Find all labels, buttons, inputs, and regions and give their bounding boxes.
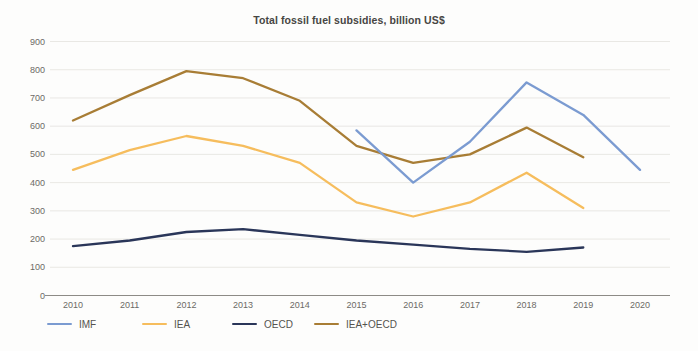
series-line-oecd xyxy=(73,229,583,252)
x-axis-tick-label-2017: 2017 xyxy=(460,300,480,310)
series-line-imf xyxy=(357,82,641,182)
fossil-fuel-subsidies-chart: Total fossil fuel subsidies, billion US$… xyxy=(0,0,698,351)
series-line-iea-oecd xyxy=(73,71,583,163)
x-axis-tick-label-2015: 2015 xyxy=(346,300,366,310)
x-axis-tick-label-2020: 2020 xyxy=(630,300,650,310)
y-axis-tick-label-300: 300 xyxy=(30,206,45,216)
x-axis-tick-label-2010: 2010 xyxy=(63,300,83,310)
x-axis-tick-label-2016: 2016 xyxy=(403,300,423,310)
y-axis-tick-label-500: 500 xyxy=(30,149,45,159)
y-axis-tick-label-200: 200 xyxy=(30,234,45,244)
y-axis-tick-label-600: 600 xyxy=(30,121,45,131)
x-axis-tick-label-2018: 2018 xyxy=(517,300,537,310)
y-axis-tick-label-800: 800 xyxy=(30,65,45,75)
x-axis-tick-label-2019: 2019 xyxy=(573,300,593,310)
line-chart-plot-area: 0100200300400500600700800900201020112012… xyxy=(0,0,698,351)
x-axis-tick-label-2014: 2014 xyxy=(290,300,310,310)
legend-line-swatch-oecd xyxy=(232,323,257,326)
legend-line-swatch-iea xyxy=(142,323,167,326)
legend-item-iea: IEA xyxy=(142,317,190,331)
x-axis-tick-label-2011: 2011 xyxy=(120,300,139,310)
y-axis-tick-label-100: 100 xyxy=(30,262,45,272)
legend-label-iea: IEA xyxy=(174,319,190,330)
legend-line-swatch-imf xyxy=(47,323,72,326)
legend-item-imf: IMF xyxy=(47,317,96,331)
x-axis-tick-label-2013: 2013 xyxy=(233,300,253,310)
y-axis-tick-label-700: 700 xyxy=(30,93,45,103)
y-axis-tick-label-900: 900 xyxy=(30,37,45,47)
legend-item-oecd: OECD xyxy=(232,317,293,331)
x-axis-tick-label-2012: 2012 xyxy=(176,300,196,310)
y-axis-tick-label-0: 0 xyxy=(40,291,45,301)
legend-label-iea-oecd: IEA+OECD xyxy=(346,319,397,330)
series-line-iea xyxy=(73,136,583,217)
chart-legend: IMFIEAOECDIEA+OECD xyxy=(0,317,698,333)
y-axis-tick-label-400: 400 xyxy=(30,178,45,188)
legend-line-swatch-iea-oecd xyxy=(314,323,339,326)
legend-label-imf: IMF xyxy=(79,319,96,330)
legend-item-iea-oecd: IEA+OECD xyxy=(314,317,397,331)
legend-label-oecd: OECD xyxy=(264,319,293,330)
